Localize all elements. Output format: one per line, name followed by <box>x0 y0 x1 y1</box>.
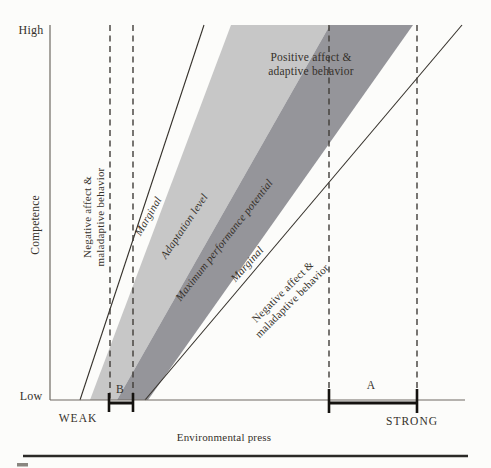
x-axis-title: Environmental press <box>177 431 272 444</box>
zone-positive-line2: adaptive behavior <box>268 64 353 78</box>
zone-positive-line1: Positive affect & <box>268 50 353 64</box>
diagram-canvas <box>0 0 491 468</box>
x-axis-strong-label: STRONG <box>386 415 438 428</box>
zone-negative-left-line2: maladaptive behavior <box>93 168 106 267</box>
marker-a-label: A <box>367 379 376 392</box>
y-axis-low-label: Low <box>20 390 43 403</box>
adaptation-level-band <box>90 25 330 400</box>
marker-b-label: B <box>116 383 124 396</box>
zone-negative-left-line1: Negative affect & <box>81 168 94 267</box>
competence-press-diagram: High Low Competence WEAK STRONG Environm… <box>0 0 491 468</box>
x-axis-weak-label: WEAK <box>59 412 98 425</box>
y-axis-title: Competence <box>29 195 42 254</box>
cropped-caption-mark <box>17 463 28 467</box>
y-axis-high-label: High <box>19 24 44 37</box>
zone-positive-label: Positive affect & adaptive behavior <box>268 50 353 78</box>
range-bracket-a-caps <box>329 389 417 413</box>
zone-negative-left-label: Negative affect & maladaptive behavior <box>81 168 106 267</box>
